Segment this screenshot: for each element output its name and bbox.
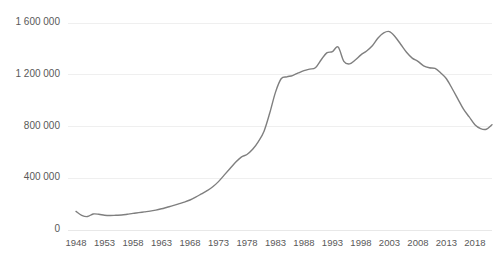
y-axis-tick-label: 1 200 000: [16, 68, 61, 79]
x-axis-tick-label: 1983: [265, 237, 286, 248]
x-axis-tick-label: 1998: [350, 237, 371, 248]
line-chart: 0400 000800 0001 200 0001 600 000 194819…: [0, 0, 499, 254]
y-axis-tick-label: 1 600 000: [16, 16, 61, 27]
y-axis-tick-label: 400 000: [24, 171, 61, 182]
x-axis-tick-label: 2003: [379, 237, 400, 248]
x-axis-tick-label: 1973: [208, 237, 229, 248]
x-axis-tick-label: 2008: [407, 237, 428, 248]
x-axis-tick-label: 1958: [122, 237, 143, 248]
data-series-group: [76, 31, 492, 216]
x-axis-tick-label: 2018: [464, 237, 485, 248]
y-axis-tick-labels: 0400 000800 0001 200 0001 600 000: [16, 16, 61, 234]
x-axis-tick-label: 2013: [436, 237, 457, 248]
x-axis-tick-label: 1968: [179, 237, 200, 248]
data-line-series-1: [76, 31, 492, 216]
x-axis-tick-label: 1953: [94, 237, 115, 248]
y-axis-tick-label: 0: [54, 223, 60, 234]
x-axis-tick-label: 1978: [236, 237, 257, 248]
x-axis-tick-label: 1948: [65, 237, 86, 248]
y-axis-tick-label: 800 000: [24, 120, 61, 131]
chart-canvas: 0400 000800 0001 200 0001 600 000 194819…: [0, 0, 499, 254]
x-axis-tick-label: 1963: [151, 237, 172, 248]
x-axis-tick-label: 1988: [293, 237, 314, 248]
x-axis-tick-labels: 1948195319581963196819731978198319881993…: [65, 237, 485, 248]
gridlines: [68, 24, 492, 231]
x-axis-tick-label: 1993: [322, 237, 343, 248]
